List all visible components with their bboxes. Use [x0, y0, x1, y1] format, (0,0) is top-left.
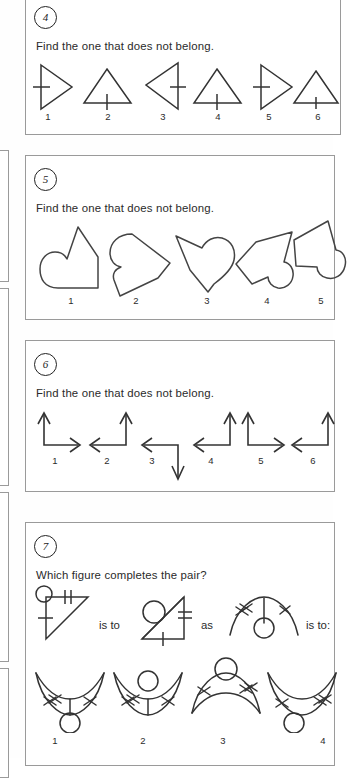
question-number-7: 7 — [34, 535, 57, 558]
q6-option-5[interactable] — [238, 407, 290, 457]
q7-analogy-term-c — [226, 595, 302, 645]
q5-option-label-1: 1 — [64, 295, 78, 306]
q4-option-6[interactable] — [292, 63, 342, 111]
q5-option-label-5: 5 — [314, 295, 328, 306]
question-panel-7: 7 Which figure completes the pair? is to — [25, 522, 335, 766]
q7-connector-as: as — [201, 619, 213, 631]
q4-option-1[interactable] — [32, 61, 76, 111]
q7-option-label-2: 2 — [136, 735, 150, 746]
question-panel-5: 5 Find the one that does not belong. 1 2… — [25, 155, 335, 320]
adjacent-panel-sliver-3 — [0, 492, 9, 662]
adjacent-panel-sliver-1 — [0, 150, 9, 282]
q7-option-1[interactable] — [32, 669, 108, 733]
q5-option-1[interactable] — [38, 224, 104, 294]
q4-option-label-2: 2 — [101, 111, 115, 122]
question-prompt-5: Find the one that does not belong. — [36, 202, 214, 214]
q6-option-label-5: 5 — [254, 455, 268, 466]
q5-option-3[interactable] — [172, 226, 242, 296]
q4-option-label-5: 5 — [262, 111, 276, 122]
adjacent-panel-sliver-2 — [0, 288, 9, 486]
q6-option-label-4: 4 — [204, 455, 218, 466]
q6-option-6[interactable] — [286, 407, 338, 457]
q7-connector-is-to-1: is to — [99, 619, 120, 631]
q7-option-2[interactable] — [110, 663, 186, 727]
q5-option-5[interactable] — [288, 218, 348, 292]
q4-option-label-1: 1 — [41, 111, 55, 122]
q4-option-5[interactable] — [252, 61, 296, 111]
q7-connector-is-to-2: is to: — [306, 619, 330, 631]
q7-option-label-3: 3 — [216, 735, 230, 746]
q6-option-2[interactable] — [84, 407, 136, 457]
q7-option-3[interactable] — [188, 657, 264, 727]
q4-option-label-4: 4 — [211, 111, 225, 122]
question-number-5: 5 — [34, 168, 57, 191]
q6-option-4[interactable] — [188, 407, 240, 457]
q4-option-2[interactable] — [82, 61, 134, 111]
q6-option-label-3: 3 — [145, 455, 159, 466]
q6-option-label-1: 1 — [48, 455, 62, 466]
q4-option-label-3: 3 — [156, 111, 170, 122]
q7-option-4[interactable] — [264, 669, 340, 733]
q4-option-label-6: 6 — [311, 111, 325, 122]
q5-option-label-2: 2 — [129, 295, 143, 306]
question-panel-6: 6 Find the one that does not belong. 1 — [25, 340, 335, 492]
q6-option-label-2: 2 — [100, 455, 114, 466]
q6-option-3[interactable] — [138, 421, 190, 485]
question-prompt-6: Find the one that does not belong. — [36, 387, 214, 399]
question-number-6: 6 — [34, 353, 57, 376]
question-panel-4: 4 Find the one that does not belong. 1 2 — [25, 0, 341, 135]
question-prompt-7: Which figure completes the pair? — [36, 569, 207, 581]
q5-option-label-3: 3 — [200, 295, 214, 306]
adjacent-panel-sliver-4 — [0, 668, 9, 778]
q5-option-label-4: 4 — [260, 295, 274, 306]
question-prompt-4: Find the one that does not belong. — [36, 40, 214, 52]
q4-option-4[interactable] — [192, 61, 244, 111]
q7-option-label-4: 4 — [316, 735, 330, 746]
q4-option-3[interactable] — [142, 59, 186, 111]
q5-option-2[interactable] — [102, 232, 174, 302]
q6-option-1[interactable] — [34, 407, 86, 457]
q6-option-label-6: 6 — [306, 455, 320, 466]
q7-analogy-term-b — [134, 591, 196, 649]
q7-analogy-term-a — [32, 585, 94, 643]
q7-option-label-1: 1 — [48, 735, 62, 746]
question-number-4: 4 — [34, 6, 57, 29]
